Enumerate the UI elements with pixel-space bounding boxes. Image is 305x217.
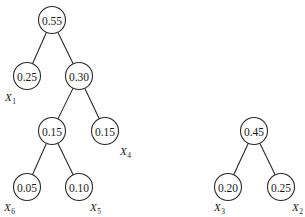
tree-node: 0.30 (66, 63, 93, 90)
node-value: 0.25 (271, 182, 291, 194)
node-value: 0.15 (42, 126, 62, 138)
tree-edge (33, 143, 47, 174)
tree-edges (33, 32, 276, 175)
tree-node: 0.20 (215, 174, 242, 201)
node-value: 0.25 (17, 71, 37, 83)
tree-nodes: 0.550.250.300.150.150.050.100.450.200.25 (14, 7, 295, 201)
node-value: 0.55 (42, 15, 62, 27)
tree-edge (260, 143, 275, 175)
tree-node: 0.55 (39, 7, 66, 34)
leaf-labels: X1X4X6X5X3X2 (3, 91, 303, 216)
node-value: 0.20 (218, 182, 238, 194)
tree-node: 0.45 (241, 118, 268, 145)
leaf-symbol-label: X6 (3, 201, 15, 216)
tree-node: 0.10 (66, 174, 93, 201)
huffman-diagram: 0.550.250.300.150.150.050.100.450.200.25… (0, 0, 305, 217)
tree-edge (58, 88, 73, 119)
leaf-symbol-label: X2 (291, 201, 303, 216)
node-value: 0.30 (69, 71, 89, 83)
tree-edge (58, 143, 73, 175)
node-value: 0.45 (244, 126, 264, 138)
leaf-symbol-label: X5 (89, 201, 101, 216)
tree-edge (33, 32, 47, 63)
leaf-symbol-label: X1 (4, 91, 16, 106)
tree-node: 0.15 (39, 118, 66, 145)
node-value: 0.15 (95, 126, 115, 138)
tree-edge (234, 143, 249, 175)
tree-node: 0.15 (92, 118, 119, 145)
tree-node: 0.25 (268, 174, 295, 201)
tree-node: 0.25 (14, 63, 41, 90)
leaf-symbol-label: X4 (119, 145, 131, 160)
tree-node: 0.05 (14, 174, 41, 201)
leaf-symbol-label: X3 (213, 201, 225, 216)
node-value: 0.05 (17, 182, 37, 194)
node-value: 0.10 (69, 182, 89, 194)
tree-edge (85, 88, 99, 119)
tree-edge (58, 32, 73, 64)
